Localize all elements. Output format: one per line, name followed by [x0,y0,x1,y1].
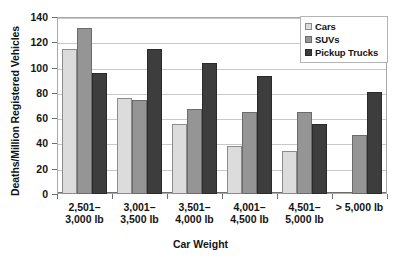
legend-item-label: Pickup Trucks [315,47,378,58]
bar-group [57,17,112,194]
x-axis-tick [277,194,278,199]
bar-pickup-trucks [312,124,327,194]
bar-pickup-trucks [367,92,382,194]
y-axis-tick-label: 20 [2,164,48,175]
x-axis-label-line1: 4,501– [288,201,320,213]
x-axis-title: Car Weight [0,238,401,250]
x-axis-label-line1: > 5,000 lb [336,201,384,213]
x-axis-label-line1: 3,001– [123,201,155,213]
x-axis-tick-label: > 5,000 lb [323,202,397,214]
y-axis-tick-label: 60 [2,113,48,124]
bar-suvs [352,135,367,194]
legend-item-pickup-trucks[interactable]: Pickup Trucks [305,46,385,59]
x-axis-label-line1: 3,501– [178,201,210,213]
x-axis-label-line1: 4,001– [233,201,265,213]
legend-item-label: SUVs [315,34,339,45]
bar-suvs [297,112,312,194]
y-axis-tick-label: 80 [2,88,48,99]
bar-group [167,17,222,194]
x-axis-tick [167,194,168,199]
bar-pickup-trucks [92,73,107,194]
bar-cars [227,146,242,194]
legend-swatch-icon [305,23,312,30]
bar-suvs [242,112,257,194]
bar-group [222,17,277,194]
legend-item-label: Cars [315,21,336,32]
x-axis-label-line1: 2,501– [68,201,100,213]
y-axis-tick-label: 0 [2,189,48,200]
y-axis-tick-label: 120 [2,37,48,48]
bar-group [112,17,167,194]
bar-cars [62,49,77,194]
x-axis-tick [387,194,388,199]
bar-chart: Deaths/Million Registered Vehicles 02040… [0,0,401,261]
bar-pickup-trucks [147,49,162,194]
legend-swatch-icon [305,36,312,43]
bar-suvs [132,100,147,194]
bar-cars [172,124,187,194]
x-axis-tick [332,194,333,199]
x-axis-tick [112,194,113,199]
legend-item-cars[interactable]: Cars [305,20,385,33]
y-axis-tick-label: 140 [2,12,48,23]
y-axis-tick-label: 40 [2,138,48,149]
legend-swatch-icon [305,49,312,56]
bar-suvs [77,28,92,194]
bar-cars [117,98,132,194]
chart-legend: CarsSUVsPickup Trucks [300,16,388,63]
bar-pickup-trucks [257,76,272,194]
bar-suvs [187,109,202,194]
bar-cars [282,151,297,194]
x-axis-tick [222,194,223,199]
x-axis-label-line2: 5,000 lb [268,214,342,226]
x-axis-tick [57,194,58,199]
legend-item-suvs[interactable]: SUVs [305,33,385,46]
bar-pickup-trucks [202,63,217,194]
y-axis-tick-label: 100 [2,63,48,74]
